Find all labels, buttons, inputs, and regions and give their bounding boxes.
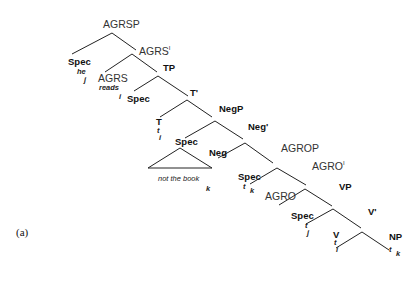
spec-neg-index: k <box>206 185 210 193</box>
node-negp: NegP <box>219 104 243 114</box>
node-neg: Neg <box>209 148 227 158</box>
spec-agro-index: k <box>250 187 254 195</box>
tree-branches <box>0 0 420 285</box>
agrs-bar-label: AGRS <box>139 45 169 57</box>
node-agrsp: AGRSP <box>103 19 140 30</box>
node-agrs: AGRS <box>98 73 128 84</box>
figure-caption: (a) <box>16 227 28 238</box>
node-vp: VP <box>339 182 352 192</box>
node-t-bar: T' <box>190 88 198 98</box>
agrs-word: reads <box>99 84 119 92</box>
node-agro: AGRO <box>265 191 296 202</box>
node-neg-bar: Neg' <box>248 122 268 132</box>
node-np: NP <box>389 232 402 242</box>
agrs-index: i <box>119 93 121 101</box>
agro-bar-prime: I <box>343 160 345 166</box>
node-agrs-bar: AGRSI <box>139 45 170 56</box>
node-spec-agro: Spec <box>238 172 261 182</box>
node-agro-bar: AGROI <box>312 160 345 171</box>
node-spec-tp: Spec <box>127 94 150 104</box>
spec-agro-trace: t <box>243 183 246 191</box>
node-spec-subject: Spec <box>68 57 91 67</box>
v-trace-index: i <box>336 246 338 254</box>
t-trace-index: i <box>159 134 161 142</box>
node-tp: TP <box>163 63 175 73</box>
node-spec-neg: Spec <box>175 137 198 147</box>
agrs-bar-prime: I <box>169 45 171 51</box>
spec-vp-index: j <box>307 229 309 237</box>
np-trace-index: k <box>396 250 400 258</box>
subject-index: j <box>84 76 86 84</box>
node-agrop: AGROP <box>281 143 319 154</box>
agro-bar-label: AGRO <box>312 160 343 172</box>
node-spec-vp: Spec <box>291 211 314 221</box>
spec-neg-phrase: not the book <box>158 175 199 183</box>
node-v-bar: V' <box>368 207 377 217</box>
np-trace: t <box>389 246 392 254</box>
